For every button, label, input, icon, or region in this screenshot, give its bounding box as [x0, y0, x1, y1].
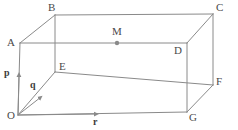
vertex-label-A: A [7, 37, 15, 48]
vertex-label-M: M [112, 26, 122, 37]
vector-label-p: p [4, 68, 10, 78]
vertex-label-E: E [59, 61, 66, 72]
edge-G-F [187, 85, 213, 112]
vertex-label-G: G [189, 112, 197, 123]
edge-A-B [20, 15, 55, 43]
vertex-label-O: O [7, 110, 15, 121]
vertex-label-C: C [216, 2, 223, 13]
edge-E-F [55, 72, 213, 85]
vector-arrow-p [18, 74, 19, 115]
vertex-label-F: F [216, 76, 222, 87]
vector-arrow-r [18, 114, 97, 115]
vector-arrow-q [18, 97, 41, 115]
cuboid-vector-diagram: A B C D E F G O M p q r [0, 0, 238, 130]
vector-label-q: q [30, 80, 36, 90]
vector-label-r: r [93, 117, 97, 127]
vertex-label-B: B [48, 2, 55, 13]
edge-O-E [18, 72, 55, 115]
edge-C-D [187, 14, 213, 43]
cuboid-drawing-canvas [0, 0, 238, 130]
point-M-marker [115, 41, 119, 45]
edge-B-C [55, 14, 213, 15]
vertex-label-D: D [174, 45, 182, 56]
